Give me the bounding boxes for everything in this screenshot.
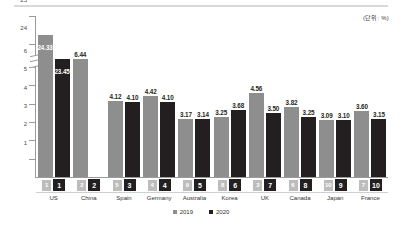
bar-group: 4.563.50 bbox=[247, 16, 282, 177]
bar-group: 6.447.06 bbox=[71, 16, 106, 177]
bar-group: 3.093.10 bbox=[318, 16, 353, 177]
bar-value-label: 3.25 bbox=[215, 109, 227, 116]
bar-group: 3.173.14 bbox=[177, 16, 212, 177]
bar-value-label: 3.60 bbox=[356, 103, 368, 110]
chart-root: (단위: %) 1234562425 24.3323.456.447.064.1… bbox=[0, 0, 402, 231]
bar-value-label: 3.68 bbox=[232, 102, 244, 109]
bar-2019[interactable] bbox=[178, 119, 193, 177]
y-axis-tick-label: 5 bbox=[24, 66, 27, 72]
legend-swatch bbox=[173, 210, 177, 214]
y-axis-tick-label: 24 bbox=[20, 25, 27, 31]
bar-2019[interactable] bbox=[319, 120, 334, 177]
category-label: UK bbox=[247, 195, 282, 207]
bar-group: 24.3323.45 bbox=[36, 16, 71, 177]
rank-badge-2020: 4 bbox=[159, 179, 171, 191]
rank-badge-2020: 2 bbox=[88, 179, 100, 191]
category-label: Australia bbox=[177, 195, 212, 207]
rank-cell: 11 bbox=[36, 178, 71, 192]
y-axis-tick bbox=[29, 104, 35, 105]
bar-value-label: 23.45 bbox=[54, 68, 69, 75]
bar-value-label: 3.15 bbox=[373, 111, 385, 118]
rank-badge-2019: 8 bbox=[218, 180, 227, 191]
bar-2020[interactable] bbox=[125, 102, 140, 177]
y-axis-tick-label: 3 bbox=[24, 103, 27, 109]
category-labels: USChinaSpainGermanyAustraliaKoreaUKCanad… bbox=[36, 195, 388, 207]
category-label: Japan bbox=[318, 195, 353, 207]
y-axis-tick bbox=[29, 159, 35, 160]
category-label: France bbox=[353, 195, 388, 207]
bar-2019[interactable] bbox=[354, 111, 369, 177]
y-axis-tick bbox=[29, 85, 35, 86]
rank-cell: 86 bbox=[212, 178, 247, 192]
bar-2020[interactable] bbox=[371, 119, 386, 177]
bar-group: 4.124.10 bbox=[106, 16, 141, 177]
bar-2020[interactable] bbox=[160, 102, 175, 177]
rank-badge-2020: 8 bbox=[300, 179, 312, 191]
bar-2020[interactable] bbox=[55, 59, 70, 177]
bar-2019[interactable] bbox=[214, 117, 229, 177]
bar-2020[interactable] bbox=[231, 110, 246, 177]
bar-2020[interactable] bbox=[195, 119, 210, 177]
category-label: US bbox=[36, 195, 71, 207]
bar-value-label: 3.09 bbox=[321, 112, 333, 119]
legend-item[interactable]: 2019 bbox=[173, 209, 193, 215]
rank-cell: 710 bbox=[353, 178, 388, 192]
category-label: Canada bbox=[282, 195, 317, 207]
bar-value-label: 3.25 bbox=[303, 109, 315, 116]
bar-2019[interactable] bbox=[38, 35, 53, 177]
rank-badge-2019: 7 bbox=[359, 180, 368, 191]
bar-value-label: 3.50 bbox=[267, 105, 279, 112]
rank-badge-row: 1122534495863768109710 bbox=[36, 178, 388, 192]
rank-badge-2019: 5 bbox=[113, 180, 122, 191]
bar-group: 3.253.68 bbox=[212, 16, 247, 177]
y-axis-tick-label: 1 bbox=[24, 140, 27, 146]
legend-label: 2020 bbox=[216, 209, 229, 215]
bar-2020[interactable] bbox=[336, 120, 351, 177]
bar-2019[interactable] bbox=[108, 101, 123, 177]
bar-2019[interactable] bbox=[249, 93, 264, 177]
bar-2019[interactable] bbox=[284, 107, 299, 177]
bar-2019[interactable] bbox=[73, 59, 88, 177]
category-label: Spain bbox=[106, 195, 141, 207]
rank-cell: 95 bbox=[177, 178, 212, 192]
rank-badge-2020: 1 bbox=[53, 179, 65, 191]
rank-cell: 44 bbox=[142, 178, 177, 192]
bar-value-label: 4.42 bbox=[145, 88, 157, 95]
legend-swatch bbox=[209, 210, 213, 214]
rank-cell: 68 bbox=[282, 178, 317, 192]
bar-2019[interactable] bbox=[143, 96, 158, 177]
bar-value-label: 3.10 bbox=[338, 112, 350, 119]
rank-badge-2019: 1 bbox=[42, 180, 51, 191]
rank-badge-2020: 9 bbox=[335, 179, 347, 191]
bar-value-label: 4.10 bbox=[162, 94, 174, 101]
bar-2020[interactable] bbox=[266, 113, 281, 177]
rank-badge-2019: 4 bbox=[148, 180, 157, 191]
y-axis-tick-label: 4 bbox=[24, 85, 27, 91]
header-divider bbox=[14, 5, 388, 7]
legend-label: 2019 bbox=[180, 209, 193, 215]
y-axis-tick-labels: 1234562425 bbox=[0, 0, 27, 161]
bar-value-label: 6.44 bbox=[74, 51, 86, 58]
bar-value-label: 3.82 bbox=[286, 99, 298, 106]
bar-value-label: 3.17 bbox=[180, 111, 192, 118]
rank-cell: 37 bbox=[247, 178, 282, 192]
rank-badge-2019: 3 bbox=[253, 180, 262, 191]
y-axis-tick bbox=[29, 140, 35, 141]
y-axis-tick bbox=[29, 16, 35, 17]
rank-badge-2020: 3 bbox=[124, 179, 136, 191]
category-label: Germany bbox=[142, 195, 177, 207]
legend-item[interactable]: 2020 bbox=[209, 209, 229, 215]
rank-badge-2019: 2 bbox=[77, 180, 86, 191]
bar-value-label: 4.10 bbox=[127, 94, 139, 101]
y-axis-tick-label: 6 bbox=[24, 48, 27, 54]
y-axis-tick bbox=[29, 44, 35, 45]
rank-badge-2020: 10 bbox=[370, 179, 382, 191]
category-label: Korea bbox=[212, 195, 247, 207]
bar-value-label: 24.33 bbox=[37, 44, 52, 51]
chart-legend: 20192020 bbox=[0, 209, 402, 215]
y-axis-tick-label: 25 bbox=[20, 0, 27, 3]
bar-group: 3.603.15 bbox=[353, 16, 388, 177]
rank-row-bottom-rule bbox=[36, 192, 388, 193]
bar-2020[interactable] bbox=[301, 117, 316, 177]
rank-badge-2020: 7 bbox=[264, 179, 276, 191]
